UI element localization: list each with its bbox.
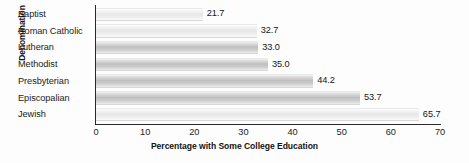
bar-value-label: 44.2: [317, 74, 335, 87]
category-label: Lutheran: [18, 39, 92, 56]
bar-value-label: 53.7: [364, 91, 382, 104]
bar: [96, 74, 313, 87]
bar: [96, 58, 268, 71]
category-label: Jewish: [18, 106, 92, 123]
bar-row: 44.2: [96, 73, 440, 90]
x-tick-label: 10: [130, 126, 160, 139]
x-tick-label: 50: [327, 126, 357, 139]
category-label: Baptist: [18, 6, 92, 23]
x-axis-line: [95, 124, 441, 125]
bar: [96, 91, 360, 104]
bar-value-label: 33.0: [262, 41, 280, 54]
bar-value-label: 21.7: [207, 7, 225, 20]
category-label: Methodist: [18, 56, 92, 73]
plot-area: 21.732.733.035.044.253.765.7: [96, 6, 440, 123]
x-tick-label: 60: [376, 126, 406, 139]
category-label: Episcopalian: [18, 90, 92, 107]
bar-row: 33.0: [96, 39, 440, 56]
bar-row: 53.7: [96, 90, 440, 107]
bar-value-label: 65.7: [423, 108, 441, 121]
bar: [96, 24, 257, 37]
category-label: Roman Catholic: [18, 23, 92, 40]
x-tick-label: 20: [179, 126, 209, 139]
x-tick-label: 70: [425, 126, 455, 139]
x-axis-tick-labels: 010203040506070: [0, 126, 469, 140]
bar-row: 35.0: [96, 56, 440, 73]
bar: [96, 41, 258, 54]
x-tick-label: 30: [228, 126, 258, 139]
x-tick-label: 0: [81, 126, 111, 139]
bar-row: 21.7: [96, 6, 440, 23]
bar-chart: Denomination BaptistRoman CatholicLuther…: [0, 0, 469, 163]
bar: [96, 108, 419, 121]
bar-value-label: 32.7: [261, 24, 279, 37]
bar-value-label: 35.0: [272, 58, 290, 71]
x-axis-title: Percentage with Some College Education: [0, 141, 469, 151]
y-axis-tick-labels: BaptistRoman CatholicLutheranMethodistPr…: [18, 6, 92, 123]
x-tick-label: 40: [278, 126, 308, 139]
bar: [96, 8, 203, 21]
bar-row: 32.7: [96, 23, 440, 40]
category-label: Presbyterian: [18, 73, 92, 90]
bar-row: 65.7: [96, 106, 440, 123]
y-axis-line: [95, 5, 96, 124]
